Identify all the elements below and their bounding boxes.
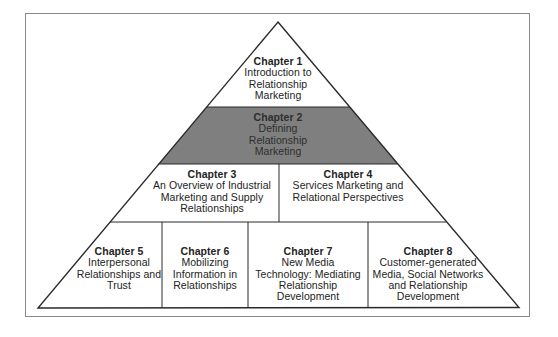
chapter-4-box: Chapter 4 Services Marketing and Relatio… — [283, 169, 413, 203]
chapter-3-box: Chapter 3 An Overview of Industrial Mark… — [142, 169, 282, 214]
chapter-6-description: Mobilizing Information in Relationships — [162, 257, 248, 291]
chapter-1-box: Chapter 1 Introduction to Relationship M… — [218, 56, 338, 101]
chapter-8-description: Customer-generated Media, Social Network… — [372, 257, 484, 302]
chapter-2-box: Chapter 2 Defining Relationship Marketin… — [218, 112, 338, 157]
chapter-1-description: Introduction to Relationship Marketing — [218, 67, 338, 101]
chapter-3-description: An Overview of Industrial Marketing and … — [142, 180, 282, 214]
chapter-5-description: Interpersonal Relationships and Trust — [74, 257, 164, 291]
chapter-7-box: Chapter 7 New Media Technology: Mediatin… — [250, 246, 366, 302]
chapter-8-box: Chapter 8 Customer-generated Media, Soci… — [372, 246, 484, 302]
chapter-7-description: New Media Technology: Mediating Relation… — [250, 257, 366, 302]
chapter-4-description: Services Marketing and Relational Perspe… — [283, 180, 413, 203]
chapter-5-box: Chapter 5 Interpersonal Relationships an… — [74, 246, 164, 291]
chapter-6-box: Chapter 6 Mobilizing Information in Rela… — [162, 246, 248, 291]
chapter-2-description: Defining Relationship Marketing — [218, 123, 338, 157]
